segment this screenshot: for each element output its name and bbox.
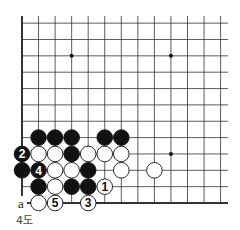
move-number: 3 [85,196,92,210]
black-stone [114,130,130,146]
white-stone [64,163,80,179]
diagram-caption: 4도 [16,211,33,227]
move-number: 2 [19,147,26,161]
white-stone [47,146,63,162]
star-point [169,54,173,58]
move-number: 5 [52,196,59,210]
black-stone [64,179,80,195]
point-marker: a [18,196,24,211]
black-stone: 2 [14,146,30,162]
black-stone [31,179,47,195]
white-stone: 5 [47,195,63,211]
move-number: 1 [101,180,108,194]
white-stone [114,163,130,179]
white-stone: 3 [80,195,96,211]
white-stone [114,146,130,162]
white-stone [80,146,96,162]
markers-layer: a [17,196,27,211]
star-point [169,152,173,156]
white-stone: 1 [97,179,113,195]
black-stone [31,130,47,146]
white-stone [147,163,163,179]
star-point [70,54,74,58]
white-stone [97,146,113,162]
white-stone [31,146,47,162]
black-stone [80,163,96,179]
black-stone [64,130,80,146]
black-stone [64,146,80,162]
move-number: 4 [35,164,42,178]
black-stone [97,130,113,146]
white-stone [31,195,47,211]
black-stone [14,163,30,179]
go-board: 24153 a [0,0,240,230]
white-stone [47,163,63,179]
white-stone [47,179,63,195]
black-stone [80,179,96,195]
black-stone [47,130,63,146]
black-stone: 4 [31,163,47,179]
